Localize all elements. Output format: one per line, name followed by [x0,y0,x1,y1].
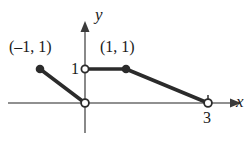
point-marker-1-1-closed [122,65,131,74]
graph-figure: y x 1 3 (–1, 1) (1, 1) [0,0,251,143]
curve-segment-3 [126,69,208,103]
point-marker-neg1-1-closed [36,65,45,74]
point-marker-3-0-open [204,99,212,107]
y-axis-arrowhead [81,21,90,32]
point-marker-0-1-open [81,65,88,72]
y-axis-label: y [95,6,103,23]
point-label-neg1-1: (–1, 1) [9,39,52,55]
x-tick-label-3: 3 [203,110,211,126]
point-marker-origin-open [81,99,89,107]
y-tick-label-1: 1 [71,61,79,77]
point-label-1-1: (1, 1) [100,39,135,55]
x-axis-label: x [236,93,244,110]
coordinate-plane-svg [0,0,251,143]
